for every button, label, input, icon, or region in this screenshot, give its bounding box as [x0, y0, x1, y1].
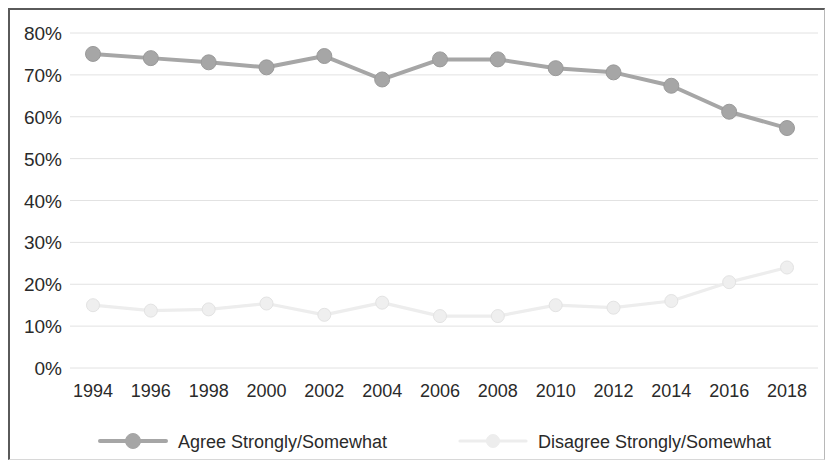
x-axis-tick-label: 1994 [73, 381, 113, 401]
x-axis-tick-label: 2018 [767, 381, 807, 401]
data-point-marker[interactable] [549, 299, 562, 312]
y-axis-tick-label: 40% [24, 191, 62, 212]
x-axis-tick-label: 1996 [131, 381, 171, 401]
legend-marker-swatch [487, 435, 500, 448]
data-point-marker[interactable] [87, 299, 100, 312]
data-point-marker[interactable] [490, 52, 505, 67]
y-axis-tick-label: 10% [24, 316, 62, 337]
x-axis-tick-label: 1998 [189, 381, 229, 401]
chart-plot-area: 80%70%60%50%40%30%20%10%0% 1994199619982… [0, 0, 833, 468]
chart-legend: Agree Strongly/SomewhatDisagree Strongly… [100, 432, 771, 452]
data-point-marker[interactable] [375, 72, 390, 87]
data-point-marker[interactable] [548, 61, 563, 76]
data-point-marker[interactable] [434, 310, 447, 323]
data-point-marker[interactable] [317, 49, 332, 64]
x-axis-tick-label: 2016 [709, 381, 749, 401]
x-axis-tick-label: 2014 [651, 381, 691, 401]
x-axis-tick-labels: 1994199619982000200220042006200820102012… [73, 381, 807, 401]
y-axis-tick-label: 70% [24, 65, 62, 86]
data-point-marker[interactable] [723, 276, 736, 289]
x-axis-tick-label: 2006 [420, 381, 460, 401]
chart-page: 80%70%60%50%40%30%20%10%0% 1994199619982… [0, 0, 833, 468]
y-axis-tick-label: 20% [24, 274, 62, 295]
data-point-marker[interactable] [433, 52, 448, 67]
data-point-marker[interactable] [259, 60, 274, 75]
data-point-marker[interactable] [86, 46, 101, 61]
x-axis-tick-label: 2010 [536, 381, 576, 401]
data-point-marker[interactable] [665, 295, 678, 308]
data-point-marker[interactable] [202, 303, 215, 316]
x-axis-tick-label: 2000 [246, 381, 286, 401]
y-axis-tick-labels: 80%70%60%50%40%30%20%10%0% [24, 23, 62, 379]
y-axis-tick-label: 60% [24, 107, 62, 128]
series-line-disagree [93, 268, 787, 317]
data-point-marker[interactable] [318, 308, 331, 321]
y-axis-tick-label: 30% [24, 232, 62, 253]
data-point-marker[interactable] [722, 104, 737, 119]
x-axis-tick-label: 2002 [304, 381, 344, 401]
line-chart-svg: 80%70%60%50%40%30%20%10%0% 1994199619982… [0, 0, 833, 468]
data-series-group [86, 46, 795, 322]
y-axis-tick-label: 0% [35, 358, 63, 379]
legend-label[interactable]: Disagree Strongly/Somewhat [538, 432, 771, 452]
data-point-marker[interactable] [780, 121, 795, 136]
data-point-marker[interactable] [781, 261, 794, 274]
legend-marker-swatch [126, 434, 141, 449]
x-axis-tick-label: 2008 [478, 381, 518, 401]
data-point-marker[interactable] [607, 301, 620, 314]
data-point-marker[interactable] [664, 78, 679, 93]
data-point-marker[interactable] [376, 296, 389, 309]
x-axis-tick-label: 2004 [362, 381, 402, 401]
data-point-marker[interactable] [491, 310, 504, 323]
data-point-marker[interactable] [260, 297, 273, 310]
data-point-marker[interactable] [144, 304, 157, 317]
x-axis-tick-label: 2012 [593, 381, 633, 401]
data-point-marker[interactable] [143, 51, 158, 66]
legend-label[interactable]: Agree Strongly/Somewhat [178, 432, 387, 452]
y-axis-tick-label: 80% [24, 23, 62, 44]
data-point-marker[interactable] [606, 65, 621, 80]
data-point-marker[interactable] [201, 55, 216, 70]
y-axis-tick-label: 50% [24, 149, 62, 170]
